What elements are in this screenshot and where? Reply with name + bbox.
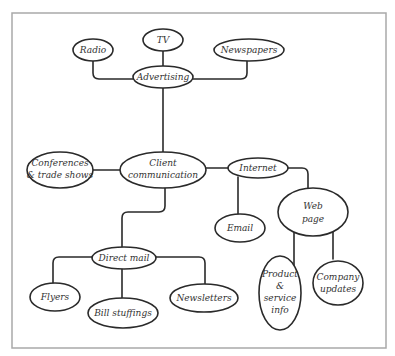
node-client-communication: Client communication — [120, 152, 206, 188]
node-label-webpage-1: Web — [303, 201, 323, 211]
node-label-conferences-1: Conferences — [31, 158, 89, 168]
node-label-newsletters: Newsletters — [175, 293, 232, 303]
node-label-product-1: Product — [261, 269, 298, 279]
node-label-tv: TV — [157, 35, 171, 45]
node-label-directmail: Direct mail — [98, 253, 150, 263]
node-label-product-4: info — [271, 305, 289, 315]
node-label-flyers: Flyers — [40, 292, 70, 302]
node-web-page: Web page — [278, 188, 348, 236]
node-label-company-2: updates — [320, 284, 357, 294]
node-label-advertising: Advertising — [136, 72, 190, 82]
node-label-product-3: service — [264, 293, 297, 303]
node-newsletters: Newsletters — [170, 284, 238, 312]
node-newspapers: Newspapers — [214, 39, 284, 61]
node-label-bill: Bill stuffings — [93, 308, 152, 318]
node-internet: Internet — [228, 158, 288, 178]
node-label-company-1: Company — [317, 272, 361, 282]
node-bill-stuffings: Bill stuffings — [88, 298, 158, 328]
node-conferences: Conferences & trade shows — [27, 152, 94, 188]
node-advertising: Advertising — [133, 66, 193, 88]
node-label-radio: Radio — [79, 45, 107, 55]
node-label-product-2: & — [276, 281, 284, 291]
node-label-newspapers: Newspapers — [220, 45, 278, 55]
node-radio: Radio — [73, 39, 113, 61]
node-email: Email — [215, 214, 265, 242]
node-label-client-2: communication — [128, 170, 198, 180]
node-flyers: Flyers — [30, 283, 80, 311]
mind-map-diagram: TV Radio Newspapers Advertising Conferen… — [0, 0, 395, 356]
node-tv: TV — [143, 29, 183, 51]
node-label-internet: Internet — [238, 163, 277, 173]
node-label-conferences-2: & trade shows — [27, 170, 94, 180]
node-company-updates: Company updates — [313, 261, 363, 305]
node-label-email: Email — [226, 223, 253, 233]
node-product-service-info: Product & service info — [259, 256, 301, 330]
node-label-webpage-2: page — [302, 214, 324, 224]
node-direct-mail: Direct mail — [92, 247, 156, 269]
node-label-client-1: Client — [149, 158, 177, 168]
